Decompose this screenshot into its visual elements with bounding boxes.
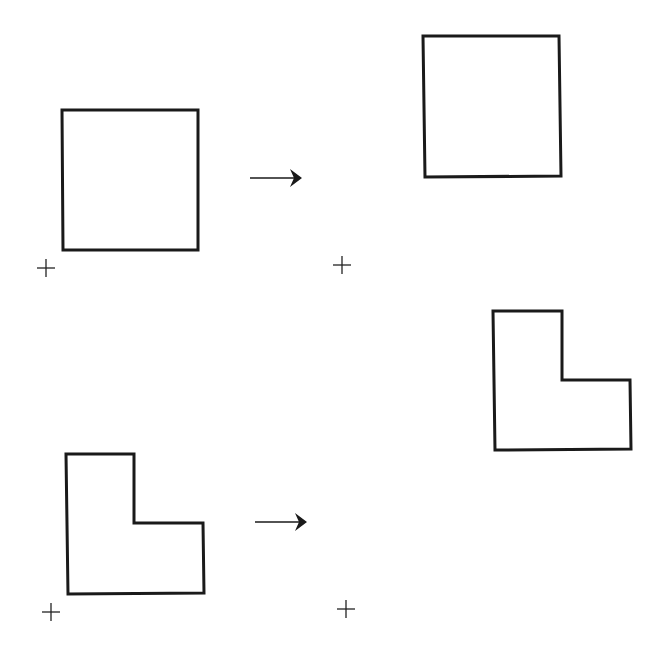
square-after xyxy=(423,36,561,177)
arrow-right-icon xyxy=(255,513,307,531)
origin-mark-l-after xyxy=(337,600,355,618)
square-before xyxy=(62,110,198,250)
origin-mark-l-before xyxy=(42,603,60,621)
row-l-shape xyxy=(42,311,631,621)
arrow-right-icon xyxy=(250,169,302,187)
origin-mark-square-before xyxy=(37,259,55,277)
diagram-canvas xyxy=(0,0,665,658)
l-shape-after xyxy=(493,311,631,450)
origin-mark-square-after xyxy=(333,256,351,274)
l-shape-before xyxy=(66,454,204,594)
row-square xyxy=(37,36,561,277)
